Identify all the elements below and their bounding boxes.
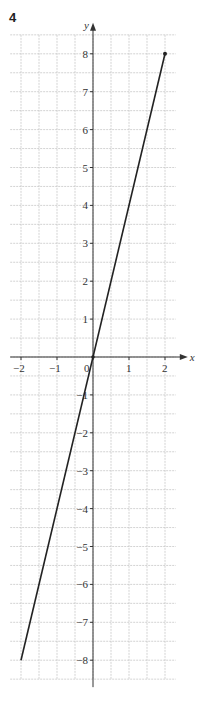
line-chart: xy−2−1012−8−7−6−5−4−3−2−112345678	[0, 0, 197, 707]
y-tick-label: −2	[76, 427, 88, 439]
x-tick-label: −2	[13, 362, 25, 374]
y-tick-label: 8	[83, 48, 89, 60]
y-tick-label: −5	[76, 541, 88, 553]
y-tick-label: 5	[83, 162, 89, 174]
y-tick-label: 6	[83, 124, 89, 136]
x-tick-label: 1	[126, 362, 132, 374]
y-tick-label: −7	[76, 616, 88, 628]
y-tick-label: 7	[83, 86, 89, 98]
y-tick-label: 2	[83, 275, 89, 287]
y-tick-label: −3	[76, 465, 88, 477]
y-axis-label: y	[83, 19, 89, 31]
y-tick-label: −8	[76, 654, 88, 666]
y-tick-label: −4	[76, 503, 88, 515]
x-tick-label: −1	[49, 362, 61, 374]
y-axis-arrow-icon	[90, 23, 96, 31]
x-axis-arrow-icon	[180, 354, 188, 360]
x-tick-label: 2	[162, 362, 168, 374]
y-tick-label: 1	[83, 313, 89, 325]
y-tick-label: −1	[76, 389, 88, 401]
origin-point	[91, 355, 95, 359]
y-tick-label: −6	[76, 578, 88, 590]
y-tick-label: 4	[83, 199, 89, 211]
x-axis-label: x	[189, 351, 195, 363]
endpoint-marker	[163, 52, 167, 56]
y-tick-label: 3	[83, 237, 89, 249]
